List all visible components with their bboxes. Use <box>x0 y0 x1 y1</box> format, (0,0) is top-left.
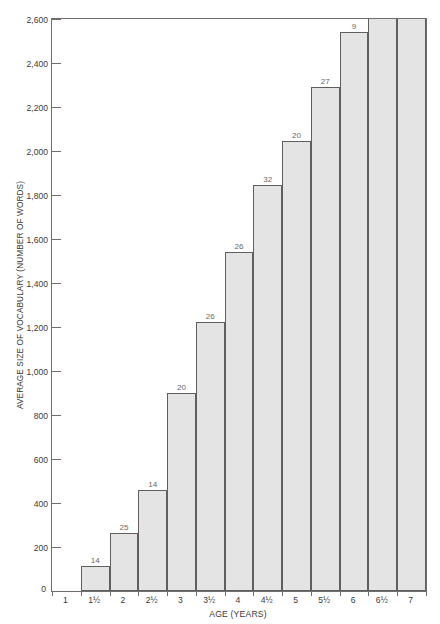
y-axis-tick-label: 2,600 <box>26 13 48 27</box>
bar-slot: 20 <box>282 19 311 591</box>
bar-slot: 26 <box>225 19 254 591</box>
bar-value-label: 27 <box>321 77 330 87</box>
y-axis-tick-label: 200 <box>34 541 48 555</box>
bar[interactable]: 14 <box>138 490 167 591</box>
x-axis-tick-label: 7 <box>396 594 425 606</box>
bar-slot <box>397 19 426 591</box>
bar[interactable]: 14 <box>81 566 110 591</box>
bar-value-label: 20 <box>292 131 301 141</box>
bar[interactable]: 20 <box>282 141 311 591</box>
bar-slot: 14 <box>81 19 110 591</box>
bar-value-label: 20 <box>177 383 186 393</box>
y-axis-tick-label: 2,200 <box>26 101 48 115</box>
bar-slot <box>52 19 81 591</box>
y-axis-tick-label: 1,800 <box>26 189 48 203</box>
x-axis-tick-label: 5 <box>281 594 310 606</box>
vocabulary-bar-chart: AVERAGE SIZE OF VOCABULARY (NUMBER OF WO… <box>0 0 440 624</box>
bar-value-label: 25 <box>119 523 128 533</box>
bar-value-label: 26 <box>234 242 243 252</box>
y-axis-tick-label: 600 <box>34 453 48 467</box>
x-axis-tick-label: 2 <box>109 594 138 606</box>
plot-area: 2004006008001,0001,2001,4001,6001,8002,0… <box>51 18 427 592</box>
y-axis-title: AVERAGE SIZE OF VOCABULARY (NUMBER OF WO… <box>14 0 28 590</box>
y-axis-tick-label: 1,400 <box>26 277 48 291</box>
bar-slot: 26 <box>196 19 225 591</box>
y-axis-tick-label: 2,400 <box>26 57 48 71</box>
bar[interactable]: 27 <box>311 87 340 591</box>
x-axis-tick-label: 2½ <box>137 594 166 606</box>
x-axis-tick-label: 1 <box>51 594 80 606</box>
x-axis-tick-label: 4½ <box>252 594 281 606</box>
x-axis-title: AGE (YEARS) <box>51 608 425 620</box>
bar-slot <box>368 19 397 591</box>
x-axis-tick-label: 3½ <box>195 594 224 606</box>
bar-value-label: 32 <box>263 175 272 185</box>
bar[interactable]: 20 <box>167 393 196 591</box>
bar-slot: 27 <box>311 19 340 591</box>
y-axis-tick-label: 1,200 <box>26 321 48 335</box>
bar-slot: 20 <box>167 19 196 591</box>
bar-value-label: 9 <box>352 22 357 32</box>
x-axis-tick <box>426 591 427 596</box>
y-axis-tick-label: 800 <box>34 409 48 423</box>
x-axis-tick-label: 6 <box>339 594 368 606</box>
bar-slot: 14 <box>138 19 167 591</box>
x-axis-tick-label: 1½ <box>80 594 109 606</box>
x-axis-tick-label: 4 <box>224 594 253 606</box>
bar-value-label: 14 <box>148 480 157 490</box>
bar[interactable]: 25 <box>110 533 139 591</box>
bar-value-label: 14 <box>91 556 100 566</box>
y-axis-tick-label: 2,000 <box>26 145 48 159</box>
y-axis-tick-label: 1,600 <box>26 233 48 247</box>
bar[interactable] <box>397 19 426 591</box>
bar[interactable] <box>368 19 397 591</box>
bar[interactable]: 26 <box>196 322 225 592</box>
bar[interactable]: 32 <box>253 185 282 591</box>
bar-slot: 25 <box>110 19 139 591</box>
y-axis-zero-label: 0 <box>34 583 46 595</box>
y-axis-tick-label: 400 <box>34 497 48 511</box>
bars-group: 1425142026263220279 <box>52 19 426 591</box>
bar[interactable]: 26 <box>225 252 254 591</box>
bar-slot: 32 <box>253 19 282 591</box>
x-axis-tick-label: 6½ <box>367 594 396 606</box>
bar[interactable]: 9 <box>340 32 369 591</box>
y-axis-tick-label: 1,000 <box>26 365 48 379</box>
bar-value-label: 26 <box>206 312 215 322</box>
x-axis-tick-label: 3 <box>166 594 195 606</box>
x-axis-tick-label: 5½ <box>310 594 339 606</box>
bar-slot: 9 <box>340 19 369 591</box>
